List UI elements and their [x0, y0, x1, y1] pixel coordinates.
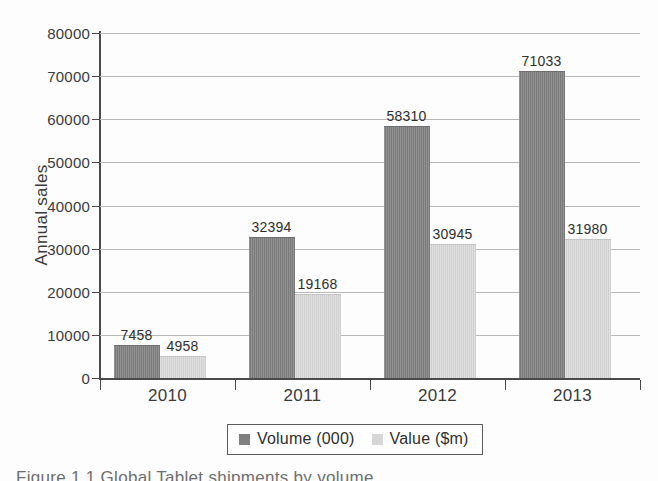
legend-item-value[interactable]: Value ($m) [372, 430, 469, 448]
bar-value-label: 30945 [433, 226, 473, 242]
bar-value-label: 19168 [298, 276, 338, 292]
y-axis-tick [92, 162, 99, 163]
y-axis-tick [92, 119, 99, 120]
legend-swatch-value-icon [372, 434, 383, 445]
bar-volume-2010[interactable] [114, 345, 160, 378]
y-axis-tick-label: 40000 [47, 197, 90, 214]
x-axis-tick [370, 380, 371, 390]
y-axis-tick [92, 335, 99, 336]
bar-value-label: 58310 [387, 108, 427, 124]
bar-value-label: 31980 [568, 221, 608, 237]
y-axis-tick-label: 0 [81, 370, 90, 387]
legend-label-value: Value ($m) [390, 430, 469, 448]
y-axis-tick-label: 50000 [47, 154, 90, 171]
y-axis-tick [92, 76, 99, 77]
y-axis-tick-label: 60000 [47, 111, 90, 128]
y-axis-tick-label: 80000 [47, 25, 90, 42]
legend-label-volume: Volume (000) [257, 430, 355, 448]
x-axis-label-2013: 2013 [553, 386, 592, 406]
bar-value-label: 7458 [121, 327, 153, 343]
x-axis-tick [505, 380, 506, 390]
y-axis-tick [92, 378, 99, 379]
y-axis-tick [92, 206, 99, 207]
bar-group: 74584958 [100, 33, 235, 378]
bar-group: 3239419168 [235, 33, 370, 378]
bar-volume-2011[interactable] [249, 237, 295, 378]
y-axis-tick-label: 30000 [47, 240, 90, 257]
bar-value-2013[interactable] [565, 239, 611, 378]
bar-value-label: 71033 [522, 53, 562, 69]
y-axis-tick-label: 70000 [47, 68, 90, 85]
chart-legend: Volume (000) Value ($m) [227, 424, 483, 455]
y-axis-tick [92, 249, 99, 250]
x-axis-label-2012: 2012 [418, 386, 457, 406]
figure-caption: Figure 1.1 Global Tablet shipments by vo… [16, 468, 374, 481]
legend-swatch-volume-icon [239, 434, 250, 445]
bar-group: 5831030945 [370, 33, 505, 378]
x-axis-label-2011: 2011 [284, 386, 322, 406]
x-axis-tick [235, 380, 236, 390]
plot-area: 74584958323941916858310309457103331980 [100, 33, 640, 378]
bar-value-2012[interactable] [430, 244, 476, 378]
bar-value-2011[interactable] [295, 294, 341, 378]
legend-item-volume[interactable]: Volume (000) [239, 430, 355, 448]
figure-bar-chart: Annual sales 010000200003000040000500006… [0, 0, 658, 481]
x-axis-tick-end [640, 380, 641, 390]
bar-volume-2012[interactable] [384, 126, 430, 378]
y-axis-tick [92, 292, 99, 293]
x-axis-label-2010: 2010 [148, 386, 187, 406]
bar-value-label: 4958 [167, 338, 199, 354]
bar-value-label: 32394 [252, 219, 292, 235]
bar-value-2010[interactable] [160, 356, 206, 378]
bar-volume-2013[interactable] [519, 71, 565, 378]
y-axis-tick [92, 33, 99, 34]
x-axis-tick [100, 380, 101, 390]
y-axis-tick-labels: 0100002000030000400005000060000700008000… [0, 0, 90, 481]
bar-group: 7103331980 [505, 33, 640, 378]
y-axis-tick-label: 10000 [47, 326, 90, 343]
y-axis-tick-label: 20000 [47, 283, 90, 300]
